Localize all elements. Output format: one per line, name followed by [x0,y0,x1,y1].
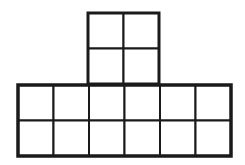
lower-block-2x6 [18,85,231,156]
lower-block-cell-r1-c5 [160,85,196,121]
lower-block-cell-r2-c3 [89,121,125,157]
upper-block-2x2 [88,13,159,84]
upper-block-cell-r1-c1 [88,13,124,49]
lower-block-cell-r2-c2 [54,121,90,157]
lower-block-cell-r2-c5 [160,121,196,157]
lower-block-cell-r2-c1 [18,121,54,157]
lower-block-cell-r2-c6 [196,121,232,157]
lower-block-cell-r1-c4 [125,85,161,121]
lower-block-cell-r1-c6 [196,85,232,121]
lower-block-cell-r1-c1 [18,85,54,121]
lower-block-cell-r2-c4 [125,121,161,157]
upper-block-cell-r2-c1 [88,49,124,85]
upper-block-cell-r2-c2 [124,49,160,85]
upper-block-cell-r1-c2 [124,13,160,49]
lower-block-cell-r1-c3 [89,85,125,121]
grid-net-diagram [0,0,245,165]
lower-block-cell-r1-c2 [54,85,90,121]
